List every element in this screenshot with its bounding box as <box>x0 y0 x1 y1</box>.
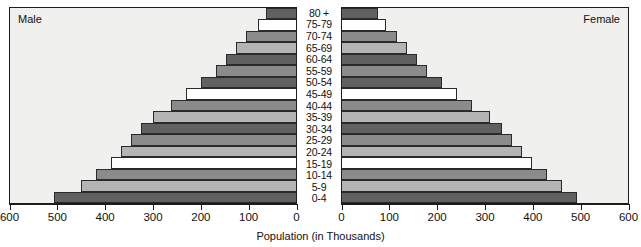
age-band-label: 70-74 <box>297 30 341 42</box>
pyramid-row <box>10 134 296 145</box>
female-bar-rows <box>342 8 628 203</box>
age-band-label: 30-34 <box>297 123 341 135</box>
pyramid-row <box>10 100 296 111</box>
axis-tick <box>485 204 486 210</box>
pyramid-row <box>10 65 296 76</box>
age-band-label: 25-29 <box>297 135 341 147</box>
pyramid-bar <box>111 157 296 168</box>
axis-tick-label: 600 <box>619 211 638 223</box>
axis-tick <box>629 204 630 210</box>
axis-tick-label: 0 <box>293 211 299 223</box>
pyramid-bar <box>121 146 296 157</box>
male-plot-panel: Male <box>9 7 297 204</box>
pyramid-row <box>342 157 628 168</box>
pyramid-row <box>342 111 628 122</box>
pyramid-row <box>10 180 296 191</box>
pyramid-bar <box>342 111 490 122</box>
pyramid-bar <box>216 65 296 76</box>
axis-tick-label: 300 <box>475 211 494 223</box>
pyramid-bar <box>141 123 296 134</box>
axis-tick-label: 400 <box>96 211 115 223</box>
pyramid-row <box>342 100 628 111</box>
pyramid-bar <box>342 123 502 134</box>
pyramid-row <box>10 19 296 30</box>
pyramid-row <box>342 19 628 30</box>
pyramid-bar <box>171 100 296 111</box>
population-pyramid-chart: Male 80 +75-7970-7465-6960-6455-5950-544… <box>0 0 641 247</box>
pyramid-row <box>10 88 296 99</box>
age-band-label: 55-59 <box>297 65 341 77</box>
axis-tick <box>533 204 534 210</box>
age-band-label: 40-44 <box>297 100 341 112</box>
pyramid-bar <box>54 192 296 203</box>
age-band-label: 65-69 <box>297 42 341 54</box>
pyramid-bar <box>342 77 442 88</box>
pyramid-row <box>10 111 296 122</box>
age-band-label: 50-54 <box>297 77 341 89</box>
axis-tick-label: 300 <box>143 211 162 223</box>
pyramid-row <box>342 134 628 145</box>
axis-tick <box>10 204 11 210</box>
pyramid-row <box>342 146 628 157</box>
pyramid-bar <box>342 65 427 76</box>
female-plot-panel: Female <box>341 7 629 204</box>
pyramid-bar <box>246 31 296 42</box>
age-band-label: 10-14 <box>297 169 341 181</box>
pyramid-row <box>10 8 296 19</box>
pyramid-bar <box>342 180 562 191</box>
pyramid-bar <box>131 134 296 145</box>
axis-tick <box>105 204 106 210</box>
age-band-axis: 80 +75-7970-7465-6960-6455-5950-5445-494… <box>297 7 341 204</box>
age-band-label: 0-4 <box>297 193 341 205</box>
pyramid-bar <box>342 192 577 203</box>
pyramid-row <box>10 77 296 88</box>
pyramid-row <box>10 31 296 42</box>
axis-tick <box>389 204 390 210</box>
pyramid-bar <box>342 42 407 53</box>
axis-tick <box>581 204 582 210</box>
axis-tick <box>57 204 58 210</box>
male-bar-rows <box>10 8 296 203</box>
axis-tick-label: 200 <box>191 211 210 223</box>
axis-tick <box>249 204 250 210</box>
pyramid-bar <box>186 88 296 99</box>
axis-tick-label: 200 <box>428 211 447 223</box>
pyramid-row <box>342 77 628 88</box>
pyramid-row <box>10 54 296 65</box>
pyramid-bar <box>342 8 378 19</box>
pyramid-row <box>342 8 628 19</box>
pyramid-row <box>342 54 628 65</box>
pyramid-bar <box>342 88 457 99</box>
pyramid-row <box>10 169 296 180</box>
pyramid-row <box>10 146 296 157</box>
axis-tick <box>201 204 202 210</box>
age-band-label: 15-19 <box>297 158 341 170</box>
pyramid-row <box>342 169 628 180</box>
pyramid-bar <box>342 100 472 111</box>
pyramid-bar <box>342 54 417 65</box>
age-band-label: 75-79 <box>297 19 341 31</box>
axis-tick-label: 500 <box>571 211 590 223</box>
pyramid-bar <box>236 42 296 53</box>
pyramid-row <box>342 31 628 42</box>
pyramid-bar <box>201 77 296 88</box>
pyramid-row <box>342 123 628 134</box>
pyramid-row <box>342 88 628 99</box>
pyramid-bar <box>342 19 386 30</box>
pyramid-bar <box>81 180 296 191</box>
axis-tick <box>437 204 438 210</box>
age-band-label: 5-9 <box>297 181 341 193</box>
age-band-label: 45-49 <box>297 88 341 100</box>
pyramid-bar <box>342 31 397 42</box>
axis-tick <box>342 204 343 210</box>
pyramid-row <box>342 180 628 191</box>
pyramid-row <box>342 42 628 53</box>
pyramid-bar <box>266 8 296 19</box>
pyramid-bar <box>153 111 296 122</box>
age-band-label: 80 + <box>297 7 341 19</box>
axis-tick-label: 0 <box>338 211 344 223</box>
axis-tick-label: 100 <box>380 211 399 223</box>
axis-title: Population (in Thousands) <box>0 230 641 242</box>
pyramid-row <box>10 123 296 134</box>
age-band-label: 20-24 <box>297 146 341 158</box>
